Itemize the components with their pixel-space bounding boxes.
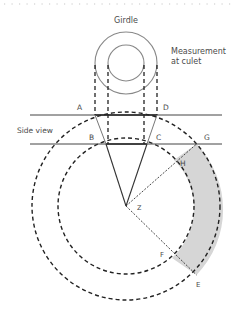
side-view-label: Side view (17, 126, 53, 135)
point-label-b: B (89, 133, 94, 142)
point-label-d: D (163, 103, 169, 112)
point-label-z: Z (137, 204, 142, 212)
point-label-a: A (77, 103, 83, 112)
culet-circle (108, 45, 144, 81)
point-label-g: G (204, 133, 210, 142)
point-label-e: E (196, 281, 200, 289)
measurement-label-line1: Measurement (171, 47, 226, 56)
girdle-label: Girdle (114, 16, 138, 25)
side-ab (95, 115, 106, 144)
point-label-c: C (156, 133, 161, 142)
line-bz (106, 144, 126, 206)
gem-measurement-diagram: Girdle Measurement at culet Side view A … (0, 0, 237, 314)
point-label-h: H (180, 159, 186, 168)
point-label-f: F (160, 251, 164, 259)
measurement-label-line2: at culet (171, 57, 201, 66)
girdle-circle (95, 32, 157, 94)
